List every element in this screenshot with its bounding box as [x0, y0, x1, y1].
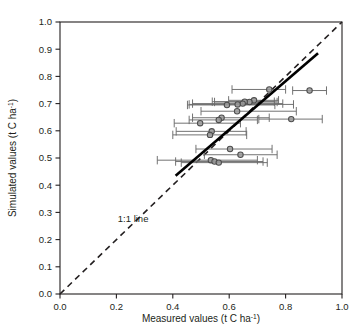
data-point-marker	[240, 101, 245, 106]
data-point-marker	[227, 146, 232, 151]
plot-annotations: 1:1 line	[118, 213, 149, 224]
x-tick-label: 1.0	[335, 301, 348, 312]
figure-background	[0, 0, 361, 330]
y-tick-label: 0.5	[39, 152, 52, 163]
data-point-marker	[216, 160, 221, 165]
data-point-marker	[267, 87, 272, 92]
y-axis-label: Simulated values (t C ha-1)	[7, 99, 18, 217]
data-point-marker	[289, 116, 294, 121]
y-tick-label: 0.6	[39, 125, 52, 136]
data-point-marker	[197, 120, 202, 125]
data-point-marker	[234, 109, 239, 114]
x-tick-label: 0.6	[223, 301, 236, 312]
data-point-marker	[307, 88, 312, 93]
x-tick-label: 0.8	[279, 301, 292, 312]
data-point-marker	[216, 117, 221, 122]
y-tick-label: 0.3	[39, 207, 52, 218]
y-tick-label: 0.1	[39, 261, 52, 272]
data-point-marker	[224, 102, 229, 107]
y-tick-label: 0.2	[39, 234, 52, 245]
annotation-label: 1:1 line	[118, 213, 149, 224]
scatter-plot-figure: 0.00.20.40.60.81.0 0.00.10.20.30.40.50.6…	[0, 0, 361, 330]
y-tick-label: 0.4	[39, 180, 52, 191]
y-tick-label: 0.8	[39, 71, 52, 82]
y-tick-label: 0.7	[39, 98, 52, 109]
x-tick-label: 0.0	[53, 301, 66, 312]
data-point-marker	[207, 132, 212, 137]
y-tick-label: 0.9	[39, 44, 52, 55]
plot-canvas: 0.00.20.40.60.81.0 0.00.10.20.30.40.50.6…	[0, 0, 361, 330]
data-point-marker	[235, 102, 240, 107]
x-tick-label: 0.4	[166, 301, 179, 312]
x-axis-label: Measured values (t C ha-1)	[142, 313, 260, 324]
x-tick-label: 0.2	[110, 301, 123, 312]
data-point-marker	[238, 152, 243, 157]
y-tick-label: 0.0	[39, 288, 52, 299]
y-tick-label: 1.0	[39, 16, 52, 27]
